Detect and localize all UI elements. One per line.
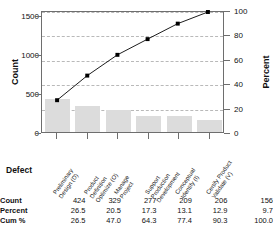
y-axis-right-tick-label: 100 xyxy=(234,7,247,16)
y-axis-right-tick-mark xyxy=(224,84,230,85)
table-row-label: Percent xyxy=(0,206,50,216)
pareto-chart-figure: Count Percent 050010001500 020406080100 … xyxy=(0,0,273,233)
table-cell: 329 xyxy=(85,196,120,206)
y-axis-left-label: Count xyxy=(10,59,20,85)
table-cell: 12.9 xyxy=(192,206,227,216)
cumulative-marker xyxy=(85,74,89,78)
y-axis-right-tick-mark xyxy=(224,35,230,36)
table-row: Percent26.520.517.313.112.99.7 xyxy=(0,206,273,216)
table-row-label: Count xyxy=(0,196,50,206)
table-cell: 424 xyxy=(50,196,85,206)
table-cell: 206 xyxy=(192,196,227,206)
table-cell: 20.5 xyxy=(85,206,120,216)
table-cell: 277 xyxy=(121,196,156,206)
category-label: Certify ProductValidate (V) xyxy=(205,159,239,200)
statistics-table: Count424329277209206156Percent26.520.517… xyxy=(0,196,273,226)
cumulative-marker xyxy=(176,22,180,26)
y-axis-left-tick-mark xyxy=(35,133,41,134)
y-axis-right-tick-label: 80 xyxy=(234,31,243,40)
table-cell: 13.1 xyxy=(156,206,191,216)
table-cell: 100.0 xyxy=(227,216,273,226)
table-row: Cum %26.547.064.377.490.3100.0 xyxy=(0,216,273,226)
y-axis-right-tick-mark xyxy=(224,133,230,134)
x-axis-tick-mark xyxy=(117,133,118,139)
table-cell: 90.3 xyxy=(192,216,227,226)
y-axis-right-tick-label: 60 xyxy=(234,55,243,64)
cumulative-marker xyxy=(115,53,119,57)
x-axis-tick-mark xyxy=(209,133,210,139)
cumulative-line xyxy=(57,12,208,100)
x-axis-tick-mark xyxy=(87,133,88,139)
table-cell: 64.3 xyxy=(121,216,156,226)
x-axis-tick-mark xyxy=(56,133,57,139)
x-axis-tick-mark xyxy=(178,133,179,139)
table-cell: 26.5 xyxy=(50,206,85,216)
cumulative-marker xyxy=(206,10,210,14)
cumulative-marker xyxy=(146,37,150,41)
plot-area xyxy=(41,11,224,133)
table-cell: 26.5 xyxy=(50,216,85,226)
x-axis-tick-mark xyxy=(148,133,149,139)
y-axis-right-tick-label: 40 xyxy=(234,80,243,89)
category-axis-title: Defect xyxy=(6,165,32,175)
table-row: Count424329277209206156 xyxy=(0,196,273,206)
y-axis-right-tick-label: 0 xyxy=(234,129,238,138)
cumulative-marker xyxy=(55,98,59,102)
y-axis-right-tick-mark xyxy=(224,109,230,110)
table-cell: 77.4 xyxy=(156,216,191,226)
table-cell: 209 xyxy=(156,196,191,206)
table-cell: 17.3 xyxy=(121,206,156,216)
table-cell: 156 xyxy=(227,196,273,206)
table-cell: 9.7 xyxy=(227,206,273,216)
table-cell: 47.0 xyxy=(85,216,120,226)
y-axis-right-tick-mark xyxy=(224,11,230,12)
y-axis-right-label: Percent xyxy=(261,55,271,88)
y-axis-right-tick-label: 20 xyxy=(234,104,243,113)
table-row-label: Cum % xyxy=(0,216,50,226)
y-axis-right-tick-mark xyxy=(224,60,230,61)
cumulative-line-series xyxy=(42,12,223,132)
